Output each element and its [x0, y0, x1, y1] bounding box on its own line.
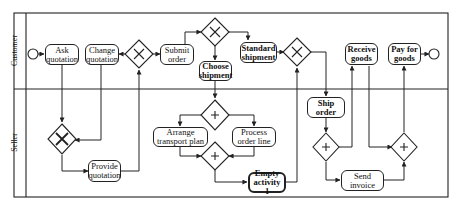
exclusive-gateway-icon — [283, 38, 311, 66]
parallel-gateway-icon — [391, 133, 417, 161]
task-provide-quotation[interactable]: Provide quotation — [88, 160, 121, 182]
parallel-gateway-icon — [201, 100, 229, 130]
task-send-invoice[interactable]: Send invoice — [341, 170, 384, 191]
end-event-icon — [429, 49, 439, 59]
task-empty-activity-1[interactable]: Empty activity 1 — [248, 172, 286, 193]
task-submit-order[interactable]: Submit order — [160, 44, 194, 65]
task-ask-quotation[interactable]: Ask quotation — [45, 44, 79, 65]
task-ship-order[interactable]: Ship order — [307, 97, 345, 118]
parallel-gateway-icon — [313, 133, 339, 161]
exclusive-gateway-icon — [48, 124, 76, 154]
exclusive-gateway-icon — [125, 40, 153, 68]
task-choose-shipment[interactable]: Choose shipment — [199, 61, 232, 81]
pool-frame — [14, 13, 448, 197]
task-change-quotation[interactable]: Change quotation — [85, 44, 119, 65]
lane-label-customer: Customer — [10, 31, 19, 71]
bpmn-diagram-canvas — [0, 0, 457, 209]
exclusive-gateway-icon — [201, 18, 229, 46]
task-pay-for-goods[interactable]: Pay for goods — [388, 43, 421, 65]
task-process-order-line[interactable]: Process order line — [232, 127, 276, 147]
parallel-gateway-icon — [201, 142, 229, 170]
task-standard-shipment[interactable]: Standard shipment — [240, 42, 277, 63]
start-event-icon — [28, 49, 38, 59]
lane-label-seller: Seller — [10, 123, 19, 163]
task-arrange-transport-plan[interactable]: Arrange transport plan — [153, 127, 208, 147]
task-receive-goods[interactable]: Receive goods — [345, 43, 378, 65]
